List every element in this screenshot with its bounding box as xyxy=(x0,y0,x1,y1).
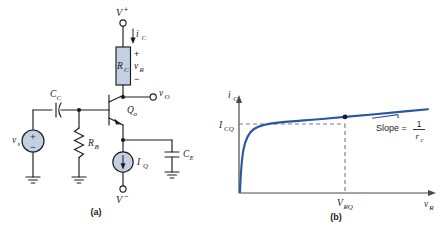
vo-label-sub: O xyxy=(165,93,170,101)
chart-slope-denominator-sub: c xyxy=(421,136,424,143)
chart-x-axis-label-sub: R xyxy=(428,204,434,212)
ground-symbol-rb xyxy=(72,177,86,183)
panel-b-caption: (b) xyxy=(330,212,342,222)
transistor-collector-lead xyxy=(109,96,123,103)
vr-label-sub: R xyxy=(139,66,145,74)
ic-label-sub: C xyxy=(142,34,147,42)
rc-label: R xyxy=(116,61,123,71)
rb-label-sub: B xyxy=(95,143,100,151)
chart-x-axis-arrow-icon xyxy=(428,190,436,196)
iq-label: I xyxy=(136,157,141,167)
qo-label-sub: o xyxy=(134,110,138,118)
iq-label-sub: Q xyxy=(143,162,148,170)
vs-minus-sign: − xyxy=(30,142,35,152)
vo-label: v xyxy=(159,88,164,98)
chart-y-tick-label-sub: CQ xyxy=(224,125,234,133)
vminus-label: V xyxy=(116,194,124,205)
panel-a-circuit: V + i C R C + v R − v O xyxy=(12,6,195,217)
chart-curve-ic-vr xyxy=(240,109,428,192)
vplus-terminal-icon xyxy=(120,20,126,26)
ce-label-sub: E xyxy=(189,154,195,162)
vs-plus-sign: + xyxy=(30,132,35,142)
chart-slope-denominator: r xyxy=(416,131,420,141)
rb-resistor-body xyxy=(75,128,84,158)
vplus-label: V xyxy=(116,7,124,18)
ground-symbol-ce xyxy=(165,172,179,178)
transistor-emitter-arrow-icon xyxy=(114,119,121,125)
ic-label: i xyxy=(136,29,139,39)
rc-label-sub: C xyxy=(124,66,129,74)
chart-y-axis-label-sub: C xyxy=(233,95,238,103)
panel-a-caption: (a) xyxy=(91,207,102,217)
vr-minus-sign: − xyxy=(134,74,139,84)
vminus-terminal-icon xyxy=(120,186,126,192)
vo-terminal-icon xyxy=(150,94,156,100)
panel-b-chart: i C v R I CQ V RQ Slope = xyxy=(218,90,436,222)
chart-slope-numerator: 1 xyxy=(417,119,422,129)
vs-label-sub: s xyxy=(18,140,21,148)
ground-symbol-vs xyxy=(26,177,40,183)
figure-svg: V + i C R C + v R − v O xyxy=(0,0,448,230)
vplus-sign: + xyxy=(124,6,128,13)
figure-container: V + i C R C + v R − v O xyxy=(0,0,448,230)
chart-y-tick-label: I xyxy=(218,120,223,130)
chart-slope-text: Slope = xyxy=(376,123,407,133)
ic-arrow-head-icon xyxy=(130,38,135,45)
vr-label: v xyxy=(134,61,139,71)
rb-label: R xyxy=(87,138,94,148)
chart-x-tick-label-sub: RQ xyxy=(343,203,353,211)
vminus-sign: − xyxy=(124,193,128,200)
chart-y-axis-label: i xyxy=(228,90,231,100)
chart-q-point-marker xyxy=(343,115,348,120)
vr-plus-sign: + xyxy=(134,49,139,59)
vs-label: v xyxy=(12,135,17,145)
cc-label-sub: C xyxy=(57,94,62,102)
